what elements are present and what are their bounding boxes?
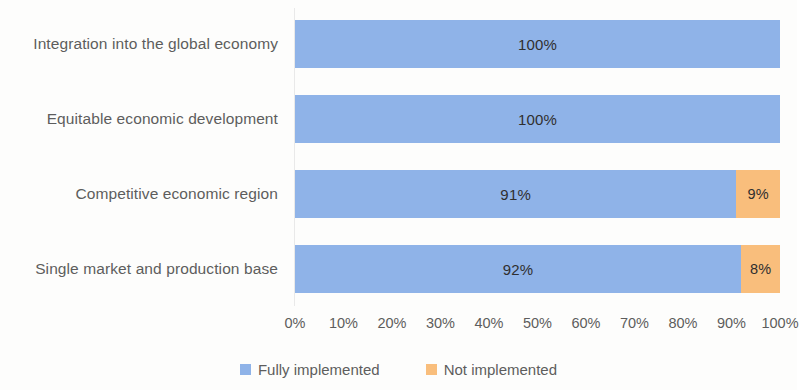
category-label-1: Equitable economic development xyxy=(0,111,278,127)
legend-item-fully-implemented[interactable]: Fully implemented xyxy=(240,362,380,377)
x-tick-label: 100% xyxy=(761,316,798,331)
x-tick-label: 10% xyxy=(329,316,358,331)
legend-label: Not implemented xyxy=(444,362,557,377)
bar-value-label: 8% xyxy=(750,262,771,277)
value-axis-ticks: 0% 10% 20% 30% 40% 50% 60% 70% 80% 90% 1… xyxy=(295,316,780,336)
x-tick-label: 20% xyxy=(377,316,406,331)
bar-segment-fully-implemented[interactable]: 92% xyxy=(295,245,741,293)
category-axis-labels: Integration into the global economy Equi… xyxy=(0,0,288,310)
x-tick-label: 90% xyxy=(717,316,746,331)
legend-item-not-implemented[interactable]: Not implemented xyxy=(426,362,557,377)
bar-segment-not-implemented[interactable]: 8% xyxy=(741,245,780,293)
bar-value-label: 100% xyxy=(518,112,557,127)
legend-label: Fully implemented xyxy=(258,362,380,377)
bar-row: 92% 8% xyxy=(295,245,780,293)
category-label-3: Single market and production base xyxy=(0,261,278,277)
x-tick-label: 40% xyxy=(474,316,503,331)
bar-value-label: 100% xyxy=(518,37,557,52)
bar-segment-fully-implemented[interactable]: 100% xyxy=(295,95,780,143)
category-label-0: Integration into the global economy xyxy=(0,36,278,52)
legend-swatch-not-implemented xyxy=(426,364,437,375)
bar-segment-fully-implemented[interactable]: 100% xyxy=(295,20,780,68)
x-tick-label: 70% xyxy=(620,316,649,331)
category-label-2: Competitive economic region xyxy=(0,186,278,202)
x-tick-label: 0% xyxy=(285,316,306,331)
bar-row: 91% 9% xyxy=(295,170,780,218)
legend-swatch-fully-implemented xyxy=(240,364,251,375)
bar-row: 100% xyxy=(295,20,780,68)
bar-value-label: 91% xyxy=(500,187,531,202)
bar-row: 100% xyxy=(295,95,780,143)
bar-value-label: 92% xyxy=(503,262,534,277)
plot-area: 100% 100% 91% 9% 92% 8% xyxy=(295,8,780,306)
bar-value-label: 9% xyxy=(747,187,768,202)
bar-segment-not-implemented[interactable]: 9% xyxy=(736,170,780,218)
x-tick-label: 50% xyxy=(523,316,552,331)
x-tick-label: 30% xyxy=(426,316,455,331)
chart-legend: Fully implemented Not implemented xyxy=(0,362,797,377)
x-tick-label: 80% xyxy=(668,316,697,331)
bar-segment-fully-implemented[interactable]: 91% xyxy=(295,170,736,218)
x-tick-label: 60% xyxy=(571,316,600,331)
